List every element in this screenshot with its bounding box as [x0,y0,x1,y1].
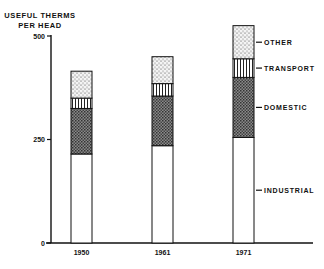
x-tick-label: 1961 [155,249,171,256]
bars: 195019611971 [71,26,254,256]
y-tick-label: 0 [41,240,45,247]
bar-segment-other [71,71,92,98]
bar-segment-domestic [71,108,92,154]
bar-1950: 1950 [71,71,92,256]
bar-segment-industrial [233,137,254,243]
bar-segment-transport [152,84,173,96]
bar-1971: 1971 [233,26,254,256]
bar-segment-other [152,57,173,84]
legend-label-domestic: DOMESTIC [264,104,307,111]
legend: INDUSTRIALDOMESTICTRANSPORTOTHER [256,39,315,194]
stacked-bar-chart: 0250500 195019611971 INDUSTRIALDOMESTICT… [0,0,324,269]
x-tick-label: 1950 [74,249,90,256]
legend-label-other: OTHER [264,39,293,46]
bar-1961: 1961 [152,57,173,256]
legend-label-industrial: INDUSTRIAL [264,187,314,194]
bar-segment-transport [233,59,254,78]
bar-segment-domestic [152,96,173,146]
legend-label-transport: TRANSPORT [264,65,315,72]
y-tick-label: 500 [33,33,45,40]
x-tick-label: 1971 [236,249,252,256]
bar-segment-domestic [233,77,254,137]
bar-segment-transport [71,98,92,108]
bar-segment-industrial [152,146,173,243]
y-tick-label: 250 [33,136,45,143]
bar-segment-industrial [71,154,92,243]
bar-segment-other [233,26,254,59]
